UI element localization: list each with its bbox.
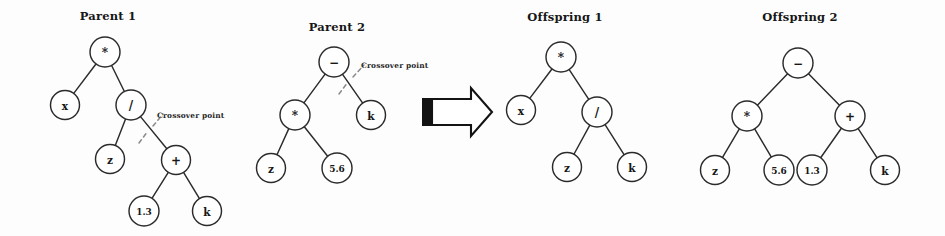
node-label-o2-z: z [712,165,718,177]
tree-edge [757,74,787,105]
tree-node-o2-root: − [783,48,813,78]
node-label-p1-plus: + [171,154,181,168]
tree-node-o2-z: z [701,156,730,185]
tree-edge [343,74,363,103]
node-label-p1-z: z [107,154,113,166]
arrow-body [432,88,492,136]
tree-node-o2-mul: * [732,101,762,131]
node-label-p1-13: 1.3 [136,207,152,217]
node-label-o1-k: k [628,162,636,174]
tree-node-o1-root: * [546,42,576,72]
tree-node-o1-k: k [618,153,647,182]
node-label-p2-k: k [367,110,375,122]
node-label-o2-k: k [881,165,889,177]
tree-edge [722,129,739,158]
tree-edge [574,125,590,154]
tree-panel-offspring-1: Offspring 1*x/zk [507,10,647,182]
produces-arrow [422,88,492,136]
crossover-label: Crossover point [157,111,225,120]
crossover-label: Crossover point [361,61,429,70]
tree-node-p2-56: 5.6 [322,153,352,183]
node-label-p2-56: 5.6 [329,164,345,174]
tree-edge [755,129,772,157]
tree-edge [277,129,289,155]
node-label-p1-k: k [203,206,211,218]
node-label-p2-z: z [268,163,274,175]
tree-edge [74,64,96,93]
node-label-p1-root: * [102,46,109,60]
tree-edge [821,128,842,157]
tree-node-p2-z: z [257,154,286,183]
tree-node-o1-z: z [553,153,582,182]
tree-panel-parent-2: Parent 2−*kz5.6Crossover point [257,20,429,183]
tree-edge [112,65,125,91]
tree-diagram-canvas: Parent 1*x/z+1.3kCrossover pointParent 2… [0,0,945,236]
tree-edge [184,172,200,198]
tree-title-offspring-2: Offspring 2 [762,10,837,24]
tree-node-o2-plus: + [835,101,865,131]
tree-edge [858,129,877,158]
node-label-o2-mul: * [744,110,751,124]
tree-node-o2-13: 1.3 [797,155,827,185]
tree-node-o1-x: x [507,96,536,125]
tree-node-p2-root: − [319,47,349,77]
tree-node-p1-z: z [96,145,125,174]
tree-edge [115,119,125,146]
tree-edge [530,69,552,98]
tree-panel-offspring-2: Offspring 2−*+z5.61.3k [701,10,900,185]
tree-edge [304,127,327,156]
crossover-marker-parent-1: Crossover point [139,111,225,143]
node-label-o1-z: z [564,162,570,174]
node-label-p2-mul: * [292,109,299,123]
tree-title-parent-1: Parent 1 [80,9,136,23]
crossover-figure: Parent 1*x/z+1.3kCrossover pointParent 2… [0,0,945,236]
node-label-o1-x: x [518,105,525,117]
tree-edge [569,70,589,100]
node-label-o2-56: 5.6 [771,166,787,176]
tree-edge [152,172,168,198]
tree-node-o1-div: / [582,97,612,127]
node-label-o2-13: 1.3 [804,166,820,176]
tree-node-p1-root: * [90,37,120,67]
tree-edge [605,125,624,155]
node-label-p1-x: x [62,100,69,112]
node-label-p2-root: − [329,56,339,70]
node-label-p1-div: / [129,99,134,113]
node-label-o1-div: / [595,106,600,120]
tree-node-p1-k: k [193,197,222,226]
tree-edge [809,74,840,106]
tree-title-offspring-1: Offspring 1 [527,10,602,24]
tree-node-p1-plus: + [162,146,191,175]
tree-edges-parent-1 [74,64,200,199]
tree-edge [304,74,325,103]
tree-panel-parent-1: Parent 1*x/z+1.3kCrossover point [51,9,225,226]
tree-node-p1-x: x [51,91,80,120]
node-label-o1-root: * [558,51,565,65]
tree-node-p2-k: k [357,101,386,130]
tree-node-p2-mul: * [280,100,310,130]
tree-edge [140,117,166,149]
tree-node-p1-13: 1.3 [129,196,159,226]
node-label-o2-root: − [793,57,803,71]
tree-node-o2-56: 5.6 [764,155,794,185]
tree-title-parent-2: Parent 2 [309,20,365,34]
tree-node-o2-k: k [871,156,900,185]
tree-node-p1-div: / [116,90,146,120]
node-label-o2-plus: + [845,110,855,124]
